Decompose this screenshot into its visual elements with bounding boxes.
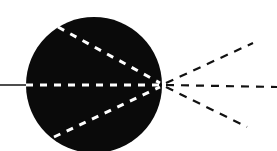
outgoing-rays [166,43,277,127]
outgoing-ray-0 [166,43,253,83]
ray-diagram [0,0,277,151]
outgoing-ray-2 [166,87,247,127]
outgoing-ray-1 [166,85,277,87]
